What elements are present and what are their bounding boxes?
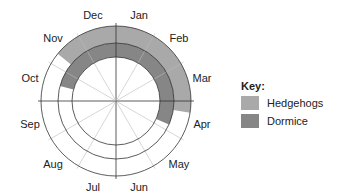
- legend: Key: Hedgehogs Dormice: [241, 80, 323, 132]
- svg-text:Apr: Apr: [193, 118, 210, 130]
- legend-item-hedgehogs: Hedgehogs: [241, 96, 323, 110]
- hedgehogs-swatch: [241, 96, 259, 110]
- svg-text:Mar: Mar: [192, 72, 211, 84]
- chart: JanFebMarAprMayJunJulAugSepOctNovDec Key…: [0, 0, 339, 196]
- svg-text:Oct: Oct: [21, 72, 38, 84]
- svg-text:Aug: Aug: [43, 158, 63, 170]
- svg-text:Nov: Nov: [43, 32, 63, 44]
- legend-label: Hedgehogs: [267, 97, 323, 109]
- radial-chart: JanFebMarAprMayJunJulAugSepOctNovDec: [0, 0, 240, 196]
- svg-text:Jan: Jan: [130, 9, 148, 21]
- svg-text:Dec: Dec: [83, 9, 103, 21]
- svg-text:May: May: [169, 158, 190, 170]
- svg-text:Sep: Sep: [20, 118, 40, 130]
- legend-label: Dormice: [267, 115, 308, 127]
- svg-text:Jun: Jun: [130, 181, 148, 193]
- svg-text:Feb: Feb: [169, 32, 188, 44]
- legend-item-dormice: Dormice: [241, 114, 323, 128]
- dormice-swatch: [241, 114, 259, 128]
- legend-title: Key:: [241, 80, 323, 92]
- svg-text:Jul: Jul: [86, 181, 100, 193]
